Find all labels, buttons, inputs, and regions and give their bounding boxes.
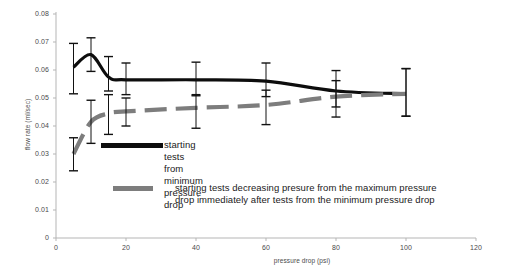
error-bar bbox=[87, 100, 96, 143]
chart-figure: 00.010.020.030.040.050.060.070.08 020406… bbox=[0, 0, 509, 277]
error-bar bbox=[69, 138, 78, 171]
y-tick-label: 0 bbox=[19, 234, 49, 241]
y-tick-label: 0.03 bbox=[19, 150, 49, 157]
legend-swatch-black-icon bbox=[101, 143, 163, 148]
error-bar bbox=[104, 95, 113, 135]
legend-label-maximum-line1: starting tests decreasing presure from t… bbox=[175, 182, 437, 193]
y-tick-label: 0.02 bbox=[19, 178, 49, 185]
x-axis-title: pressure drop (psi) bbox=[222, 257, 382, 264]
x-tick-label: 20 bbox=[111, 244, 141, 251]
x-tick-label: 100 bbox=[391, 244, 421, 251]
error-bar bbox=[69, 43, 78, 93]
y-tick-label: 0.07 bbox=[19, 38, 49, 45]
chart-canvas bbox=[0, 0, 509, 277]
x-tick-label: 120 bbox=[461, 244, 491, 251]
y-tick-label: 0.01 bbox=[19, 206, 49, 213]
legend-label-maximum: starting tests decreasing presure from t… bbox=[175, 182, 437, 206]
plot-area: 00.010.020.030.040.050.060.070.08 020406… bbox=[0, 0, 509, 277]
legend-item-maximum: starting tests decreasing presure from t… bbox=[113, 182, 505, 206]
error-bar bbox=[192, 95, 201, 129]
y-tick-label: 0.08 bbox=[19, 10, 49, 17]
legend-label-maximum-line2: drop immediately after tests from the mi… bbox=[175, 194, 435, 205]
x-tick-label: 40 bbox=[181, 244, 211, 251]
y-axis-title: flow rate (ml/sec) bbox=[24, 99, 31, 150]
y-tick-label: 0.06 bbox=[19, 66, 49, 73]
legend-swatch-gray-icon bbox=[113, 186, 153, 191]
series-line-minimum bbox=[74, 54, 407, 93]
x-tick-label: 0 bbox=[41, 244, 71, 251]
error-bar bbox=[262, 90, 271, 124]
x-tick-label: 60 bbox=[251, 244, 281, 251]
x-tick-label: 80 bbox=[321, 244, 351, 251]
